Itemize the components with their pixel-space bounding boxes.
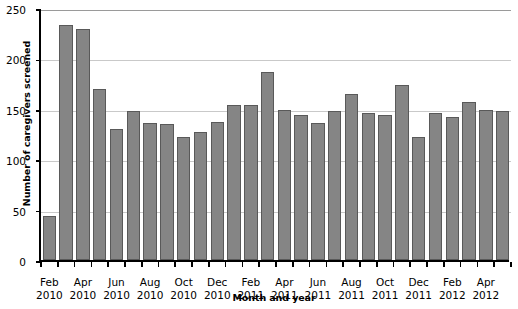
bar	[127, 111, 140, 260]
x-tick-mark	[493, 262, 495, 267]
y-tick-label: 50	[0, 207, 26, 217]
x-tick-mark	[208, 262, 210, 267]
x-tick-mark	[409, 262, 411, 267]
bar	[143, 123, 156, 260]
x-tick-mark	[393, 262, 395, 267]
bar-chart: Number of caregivers screened 0501001502…	[0, 0, 518, 309]
bar	[412, 137, 425, 260]
x-tick-mark	[359, 262, 361, 267]
x-tick-mark	[258, 262, 260, 267]
x-tick-mark	[460, 262, 462, 267]
x-tick-mark	[326, 262, 328, 267]
x-tick-mark	[342, 262, 344, 267]
x-tick-mark	[477, 262, 479, 267]
bar	[160, 124, 173, 260]
x-tick-mark	[174, 262, 176, 267]
bar	[378, 115, 391, 260]
bar	[345, 94, 358, 260]
bar	[177, 137, 190, 260]
bar	[446, 117, 459, 260]
bar	[429, 113, 442, 260]
plot-area: 050100150200250 Feb2010Apr2010Jun2010Aug…	[39, 10, 509, 262]
bar	[110, 129, 123, 260]
x-tick-mark	[225, 262, 227, 267]
x-tick-mark	[426, 262, 428, 267]
x-tick-mark	[376, 262, 378, 267]
bar	[43, 216, 56, 260]
bar	[496, 111, 509, 260]
y-tick-label: 250	[0, 5, 26, 15]
y-tick-label: 150	[0, 106, 26, 116]
bar	[211, 122, 224, 260]
bar	[328, 111, 341, 260]
bar-series	[41, 8, 511, 260]
bar	[278, 110, 291, 260]
bar	[294, 115, 307, 260]
bar	[462, 102, 475, 260]
bar	[194, 132, 207, 260]
x-tick-mark	[275, 262, 277, 267]
y-tick-label: 100	[0, 156, 26, 166]
x-tick-mark	[191, 262, 193, 267]
x-tick-mark	[40, 262, 42, 267]
bar	[244, 105, 257, 260]
x-tick-mark	[57, 262, 59, 267]
bar	[479, 110, 492, 260]
x-tick-mark	[292, 262, 294, 267]
x-tick-month: Apr	[477, 276, 495, 288]
x-tick-mark	[74, 262, 76, 267]
bar	[76, 29, 89, 260]
x-axis-title: Month and year	[39, 292, 509, 303]
x-tick-mark	[158, 262, 160, 267]
bar	[227, 105, 240, 260]
x-tick-mark	[443, 262, 445, 267]
bar	[59, 25, 72, 260]
bar	[362, 113, 375, 260]
bar	[93, 89, 106, 260]
bar	[261, 72, 274, 260]
x-tick-mark	[510, 262, 512, 267]
x-tick-mark	[124, 262, 126, 267]
y-tick-label: 200	[0, 55, 26, 65]
x-tick-mark	[242, 262, 244, 267]
x-tick-mark	[309, 262, 311, 267]
y-tick-label: 0	[0, 257, 26, 267]
bar	[395, 85, 408, 260]
x-tick-mark	[91, 262, 93, 267]
x-tick-mark	[107, 262, 109, 267]
x-tick-mark	[141, 262, 143, 267]
bar	[311, 123, 324, 260]
